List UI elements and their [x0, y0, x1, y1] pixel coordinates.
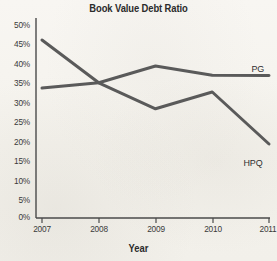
x-tick-label-2011: 2011: [250, 224, 277, 234]
x-axis-title: Year: [8, 243, 268, 254]
series-line-pg: [42, 66, 269, 88]
chart-container: Book Value Debt Ratio 50% 45% 40% 35% 30…: [0, 0, 277, 261]
x-tick-label-2009: 2009: [138, 224, 175, 234]
x-tick-label-2010: 2010: [195, 224, 232, 234]
plot-area: [0, 0, 277, 261]
x-tick-label-2007: 2007: [24, 224, 61, 234]
series-label-hpq: HPQ: [244, 157, 263, 168]
x-tick-label-2008: 2008: [81, 224, 118, 234]
series-line-hpq: [42, 40, 269, 144]
series-label-pg: PG: [251, 63, 264, 74]
